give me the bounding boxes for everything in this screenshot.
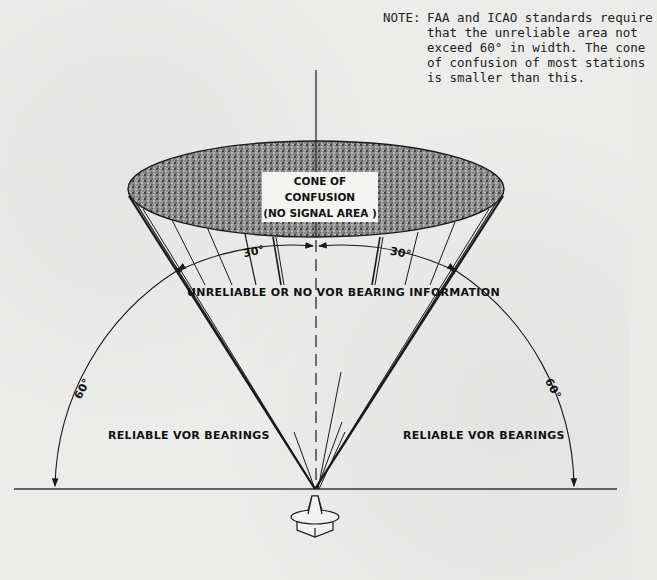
reliable-right-label: RELIABLE VOR BEARINGS <box>403 429 565 442</box>
angle-label-60-right: 60° <box>542 376 564 401</box>
unreliable-region-label: UNRELIABLE OR NO VOR BEARING INFORMATION <box>187 286 500 299</box>
vor-station-icon <box>291 496 339 537</box>
note-block: NOTE: FAA and ICAO standards require tha… <box>383 10 398 55</box>
note-label: NOTE: <box>383 10 421 25</box>
cone-subtitle: (NO SIGNAL AREA ) <box>262 205 378 221</box>
angle-label-30-right: 30° <box>389 245 413 262</box>
angle-label-60-left: 60° <box>72 376 94 401</box>
angle-label-30-left: 30° <box>242 243 266 260</box>
arc-right-30 <box>319 245 449 268</box>
reliable-left-label: RELIABLE VOR BEARINGS <box>108 429 270 442</box>
note-text: FAA and ICAO standards require that the … <box>427 10 657 85</box>
arc-left-60 <box>55 270 178 486</box>
arc-right-60 <box>455 270 574 486</box>
cone-of-confusion-label: CONE OF CONFUSION (NO SIGNAL AREA ) <box>262 172 378 222</box>
cone-title: CONE OF CONFUSION <box>262 173 378 205</box>
